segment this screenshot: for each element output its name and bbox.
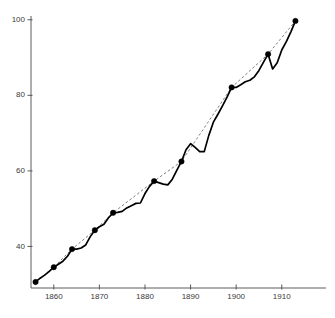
x-axis-ticks: 186018701880189019001910 [45, 285, 291, 301]
x-tick-label: 1890 [182, 292, 200, 301]
data-point-markers [33, 18, 298, 284]
y-tick-label: 40 [16, 242, 25, 251]
x-tick-label: 1860 [45, 292, 63, 301]
y-tick-label: 60 [16, 166, 25, 175]
peak-marker-point [92, 228, 97, 233]
chart-container: 406080100 186018701880189019001910 [0, 0, 335, 318]
peak-marker-point [69, 246, 74, 251]
x-tick-label: 1900 [227, 292, 245, 301]
main-line-series [36, 21, 296, 282]
x-tick-label: 1870 [90, 292, 108, 301]
x-tick-label: 1910 [273, 292, 291, 301]
axes-group [31, 16, 326, 288]
peak-marker-point [229, 85, 234, 90]
peak-marker-point [110, 210, 115, 215]
y-tick-label: 100 [12, 15, 26, 24]
line-chart: 406080100 186018701880189019001910 [0, 0, 335, 318]
x-tick-label: 1880 [136, 292, 154, 301]
peak-marker-point [265, 51, 270, 56]
peak-marker-point [151, 178, 156, 183]
peak-marker-point [51, 265, 56, 270]
peak-marker-point [33, 279, 38, 284]
y-axis-ticks: 406080100 [12, 15, 33, 251]
trend-line-series [36, 21, 296, 282]
y-tick-label: 80 [16, 90, 25, 99]
peak-marker-point [293, 18, 298, 23]
peak-marker-point [179, 159, 184, 164]
